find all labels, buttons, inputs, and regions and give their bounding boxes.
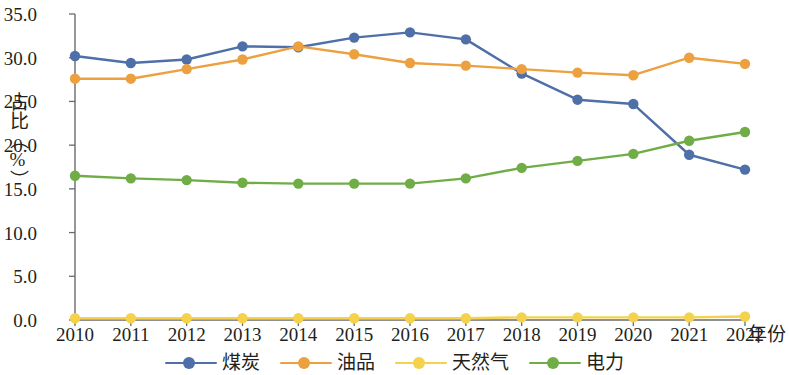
legend-dot-icon	[183, 357, 195, 369]
data-point[interactable]	[628, 149, 638, 159]
series-天然气	[70, 311, 750, 323]
series-line	[75, 32, 745, 169]
data-point[interactable]	[461, 34, 471, 44]
legend-swatch-icon	[395, 356, 447, 370]
data-point[interactable]	[405, 313, 415, 323]
data-point[interactable]	[237, 54, 247, 64]
data-point[interactable]	[405, 58, 415, 68]
data-point[interactable]	[181, 54, 191, 64]
data-point[interactable]	[70, 51, 80, 61]
data-point[interactable]	[293, 41, 303, 51]
data-point[interactable]	[237, 178, 247, 188]
data-point[interactable]	[349, 313, 359, 323]
data-point[interactable]	[349, 32, 359, 42]
plot-area	[75, 14, 745, 320]
legend-swatch-icon	[280, 356, 332, 370]
legend-dot-icon	[298, 357, 310, 369]
data-point[interactable]	[237, 41, 247, 51]
data-point[interactable]	[461, 60, 471, 70]
data-point[interactable]	[70, 313, 80, 323]
legend-label: 天然气	[452, 353, 509, 372]
data-point[interactable]	[572, 94, 582, 104]
legend-label: 油品	[337, 353, 375, 372]
data-point[interactable]	[516, 163, 526, 173]
series-电力	[70, 127, 750, 189]
data-point[interactable]	[628, 70, 638, 80]
data-point[interactable]	[572, 312, 582, 322]
data-point[interactable]	[405, 178, 415, 188]
legend-item[interactable]: 电力	[529, 353, 624, 372]
chart-legend: 煤炭油品天然气电力	[0, 350, 789, 375]
series-煤炭	[70, 27, 750, 175]
data-point[interactable]	[126, 58, 136, 68]
data-point[interactable]	[181, 313, 191, 323]
data-point[interactable]	[461, 173, 471, 183]
y-tick-label: 15.0	[0, 180, 37, 199]
legend-label: 煤炭	[222, 353, 260, 372]
line-chart-figure: 占比（%） 0.05.010.015.020.025.030.035.0 201…	[0, 0, 789, 375]
data-point[interactable]	[628, 312, 638, 322]
data-point[interactable]	[572, 67, 582, 77]
data-point[interactable]	[126, 313, 136, 323]
legend-item[interactable]: 油品	[280, 353, 375, 372]
legend-swatch-icon	[529, 356, 581, 370]
data-point[interactable]	[684, 312, 694, 322]
data-point[interactable]	[740, 59, 750, 69]
data-point[interactable]	[126, 73, 136, 83]
data-point[interactable]	[684, 150, 694, 160]
data-point[interactable]	[516, 64, 526, 74]
data-point[interactable]	[405, 27, 415, 37]
y-tick-label: 25.0	[0, 92, 37, 111]
y-tick-label: 0.0	[0, 311, 37, 330]
data-point[interactable]	[237, 313, 247, 323]
data-point[interactable]	[628, 99, 638, 109]
legend-label: 电力	[586, 353, 624, 372]
data-point[interactable]	[70, 73, 80, 83]
data-point[interactable]	[181, 64, 191, 74]
legend-dot-icon	[547, 357, 559, 369]
data-point[interactable]	[126, 173, 136, 183]
data-point[interactable]	[293, 178, 303, 188]
y-tick-label: 30.0	[0, 49, 37, 68]
y-tick-label: 20.0	[0, 136, 37, 155]
legend-dot-icon	[413, 357, 425, 369]
data-point[interactable]	[293, 313, 303, 323]
x-axis-title: 年份	[748, 325, 786, 344]
data-point[interactable]	[516, 312, 526, 322]
data-point[interactable]	[740, 311, 750, 321]
data-point[interactable]	[349, 178, 359, 188]
data-point[interactable]	[349, 49, 359, 59]
series-line	[75, 132, 745, 184]
data-point[interactable]	[70, 171, 80, 181]
legend-item[interactable]: 煤炭	[165, 353, 260, 372]
legend-item[interactable]: 天然气	[395, 353, 509, 372]
y-tick-label: 35.0	[0, 5, 37, 24]
plot-svg	[75, 14, 745, 320]
data-point[interactable]	[740, 127, 750, 137]
data-point[interactable]	[684, 53, 694, 63]
y-tick-label: 5.0	[0, 267, 37, 286]
data-point[interactable]	[684, 136, 694, 146]
data-point[interactable]	[572, 156, 582, 166]
data-point[interactable]	[461, 313, 471, 323]
series-油品	[70, 41, 750, 84]
data-point[interactable]	[740, 164, 750, 174]
legend-swatch-icon	[165, 356, 217, 370]
data-point[interactable]	[181, 175, 191, 185]
y-tick-label: 10.0	[0, 224, 37, 243]
